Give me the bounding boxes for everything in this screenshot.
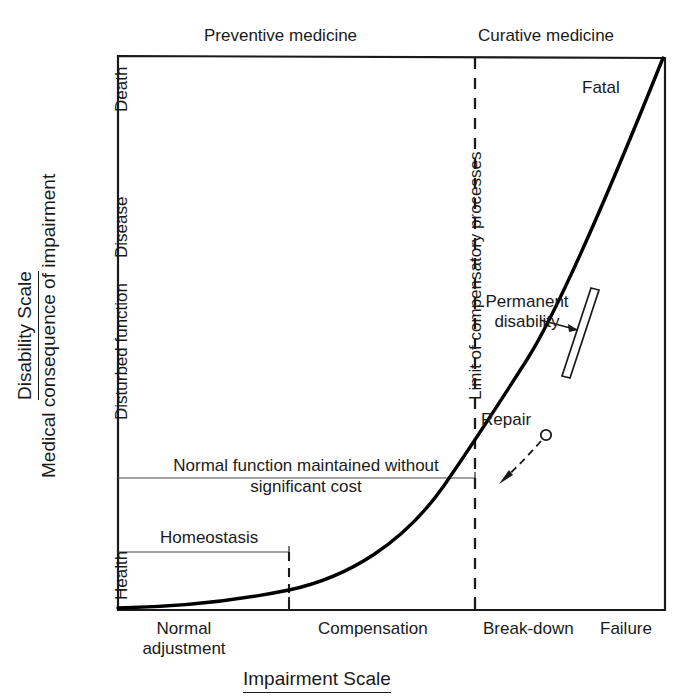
homeostasis-rule — [118, 546, 289, 558]
x-tick-compensation: Compensation — [318, 619, 428, 639]
x-tick-failure: Failure — [600, 619, 652, 639]
annotation-fatal: Fatal — [582, 78, 620, 98]
plot-canvas — [0, 0, 686, 698]
x-tick-normal-adjustment: Normal adjustment — [124, 619, 244, 658]
annotation-homeostasis: Homeostasis — [160, 528, 258, 548]
y-axis-title-main: Medical consequence of impairment — [38, 174, 60, 478]
x-axis-title-impairment-scale: Impairment Scale — [243, 668, 391, 693]
impairment-disability-figure: Preventive medicine Curative medicine De… — [0, 0, 686, 698]
header-curative-medicine: Curative medicine — [478, 26, 614, 46]
y-axis-title-disability-scale: Disability Scale — [14, 271, 39, 400]
annotation-normal-function-maintained: Normal function maintained without signi… — [148, 455, 464, 498]
annotation-limit-of-compensatory-processes: Limit of compensatory processes — [466, 152, 486, 401]
repair-arrow — [499, 441, 541, 484]
y-tick-disease: Disease — [112, 197, 132, 258]
y-tick-disturbed-function: Disturbed function — [112, 283, 132, 420]
x-axis-ticks — [289, 597, 475, 610]
x-tick-normal-line2: adjustment — [142, 639, 225, 658]
annotation-repair: Repair — [481, 410, 531, 430]
annotation-permanent-disability: Permanent disability — [468, 292, 586, 333]
x-tick-normal-line1: Normal — [157, 619, 212, 638]
x-tick-breakdown: Break-down — [483, 619, 574, 639]
repair-marker — [541, 430, 551, 440]
header-preventive-medicine: Preventive medicine — [204, 26, 357, 46]
y-tick-health: Health — [112, 551, 132, 600]
y-tick-death: Death — [112, 67, 132, 112]
